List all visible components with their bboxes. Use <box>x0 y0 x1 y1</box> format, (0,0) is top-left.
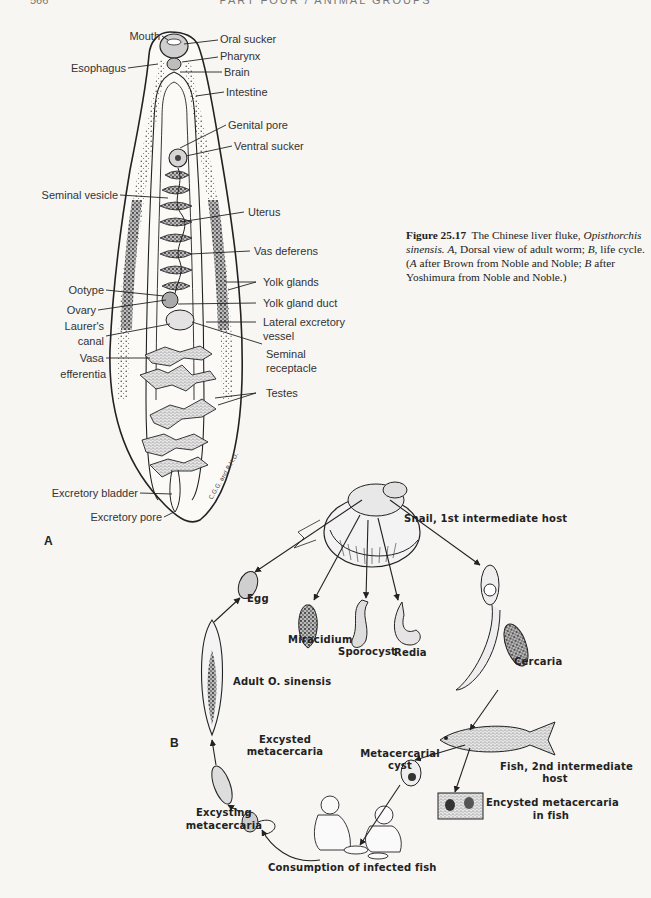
caption-panel-a-letter: A, <box>447 243 457 255</box>
label-excysting-line1: Excysting <box>184 807 264 819</box>
label-metacercarial-line1: Metacercarial <box>360 748 440 760</box>
label-laurers: Laurer's <box>40 320 104 333</box>
adult-worm-dorsal-view: C.G.G. and R.H.D. <box>98 32 262 522</box>
label-excysting-line2: metacercaria <box>184 820 264 832</box>
caption-title: The Chinese liver fluke, <box>472 229 581 241</box>
label-excretory-bladder: Excretory bladder <box>20 487 138 500</box>
figure-caption: Figure 25.17 The Chinese liver fluke, Op… <box>406 228 646 284</box>
people-eating-illustration <box>314 796 401 859</box>
label-fish-line2: host <box>500 773 610 785</box>
label-sporocyst: Sporocyst <box>338 646 396 658</box>
label-mouth: Mouth <box>70 30 160 43</box>
label-lateral-excretory: Lateral excretory <box>263 316 345 329</box>
label-receptacle: receptacle <box>266 362 317 375</box>
label-consumption: Consumption of infected fish <box>268 862 437 874</box>
label-encysted-line2: in fish <box>486 810 616 822</box>
panel-letter-a: A <box>44 534 53 548</box>
label-efferentia: efferentia <box>40 368 106 381</box>
label-uterus: Uterus <box>248 206 280 219</box>
caption-genus: Opisthorchis <box>584 229 642 241</box>
fish-illustration <box>440 722 555 755</box>
label-snail: Snail, 1st intermediate host <box>404 513 567 525</box>
label-vasa: Vasa <box>40 352 104 365</box>
label-testes: Testes <box>266 387 298 400</box>
label-brain: Brain <box>224 66 250 79</box>
caption-species: sinensis. <box>406 243 445 255</box>
label-egg: Egg <box>247 593 269 605</box>
label-pharynx: Pharynx <box>220 50 260 63</box>
label-ovary: Ovary <box>40 304 96 317</box>
label-yolk-gland-duct: Yolk gland duct <box>263 297 337 310</box>
label-ootype: Ootype <box>40 284 104 297</box>
label-encysted-line1: Encysted metacercaria <box>486 797 616 809</box>
caption-panel-b-letter: B, <box>588 243 598 255</box>
label-esophagus: Esophagus <box>30 62 126 75</box>
label-intestine: Intestine <box>226 86 268 99</box>
label-excysted-line1: Excysted <box>235 734 335 746</box>
caption-credit-a-letter: A <box>410 257 417 269</box>
label-fish-line1: Fish, 2nd intermediate <box>500 761 610 773</box>
panel-letter-b: B <box>170 736 179 750</box>
snail-illustration <box>294 482 420 567</box>
caption-credit-a-text: after Brown from Noble and Noble; <box>420 257 582 269</box>
label-redia: Redia <box>394 647 427 659</box>
figure-number: Figure 25.17 <box>406 229 466 241</box>
label-cercaria: Cercaria <box>514 656 562 668</box>
label-genital-pore: Genital pore <box>228 119 288 132</box>
label-canal: canal <box>40 335 104 348</box>
label-oral-sucker: Oral sucker <box>220 33 276 46</box>
label-miracidium: Miracidium <box>288 634 353 646</box>
label-seminal-vesicle: Seminal vesicle <box>10 189 118 202</box>
label-ventral-sucker: Ventral sucker <box>234 140 304 153</box>
label-yolk-glands: Yolk glands <box>263 276 319 289</box>
label-excretory-pore: Excretory pore <box>60 511 162 524</box>
label-vas-deferens: Vas deferens <box>254 245 318 258</box>
caption-panel-b-text: life cycle. <box>600 243 645 255</box>
caption-panel-a-text: Dorsal view of adult worm; <box>460 243 585 255</box>
label-vessel: vessel <box>263 330 294 343</box>
cercaria-illustration <box>456 565 533 690</box>
label-adult-o-sinensis: Adult O. sinensis <box>233 676 331 688</box>
label-seminal: Seminal <box>266 348 306 361</box>
label-excysted-line2: metacercaria <box>235 746 335 758</box>
caption-credit-b-letter: B <box>585 257 592 269</box>
label-metacercarial-line2: cyst <box>360 760 440 772</box>
